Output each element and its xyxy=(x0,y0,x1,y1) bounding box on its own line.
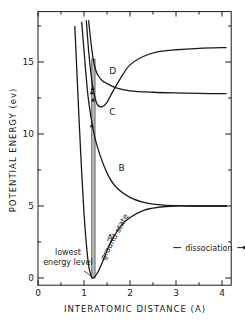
y-tick-label: 10 xyxy=(23,129,35,139)
y-axis-label: POTENTIAL ENERGY (ev) xyxy=(8,88,18,213)
annotation-dissociation: dissociation xyxy=(185,244,232,253)
annotation-D: D xyxy=(109,66,116,76)
curve-d xyxy=(89,20,227,93)
x-axis-label: INTERATOMIC DISTANCE (A) xyxy=(64,304,206,314)
y-tick-label: 5 xyxy=(28,201,34,211)
annotation-lowest: lowest xyxy=(55,248,81,257)
potential-energy-chart: 01234051015 DCBAground statelowestenergy… xyxy=(0,0,245,320)
annotation-ground-state: ground state xyxy=(99,212,131,261)
transition-band xyxy=(90,59,95,278)
x-tick-label: 2 xyxy=(127,288,133,298)
x-tick-label: 1 xyxy=(81,288,87,298)
annotation-energy-level: energy level xyxy=(43,258,92,267)
x-tick-label: 0 xyxy=(35,288,41,298)
annotation-C: C xyxy=(109,107,115,117)
annotation-B: B xyxy=(119,163,125,173)
y-tick-label: 15 xyxy=(23,57,34,67)
curves xyxy=(75,20,227,278)
x-tick-label: 3 xyxy=(173,288,179,298)
x-tick-label: 4 xyxy=(219,288,225,298)
y-tick-label: 0 xyxy=(28,273,34,283)
axis-ticks: 01234051015 xyxy=(23,12,232,299)
annotations: DCBAground statelowestenergy leveldissoc… xyxy=(43,66,245,278)
curve-b xyxy=(82,22,227,206)
curve-a xyxy=(75,26,227,278)
